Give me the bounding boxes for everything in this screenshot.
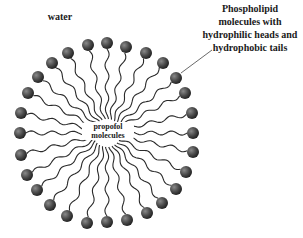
- phospholipid-head: [46, 57, 58, 69]
- phospholipid-tail: [69, 145, 99, 211]
- phospholipid-head: [62, 47, 74, 59]
- phospholipid-head: [179, 87, 191, 99]
- phospholipid-head: [140, 47, 152, 59]
- phospholipid-tail: [54, 143, 97, 200]
- annotation-line-4: hydrophobic tails: [197, 41, 303, 54]
- core-line-1: propofol: [82, 122, 134, 131]
- phospholipid-tail: [109, 147, 126, 214]
- phospholipid-tail: [110, 53, 126, 120]
- phospholipid-head: [120, 41, 132, 53]
- phospholipid-head: [31, 184, 43, 196]
- phospholipid-head: [32, 71, 44, 83]
- phospholipid-tail: [105, 147, 109, 216]
- phospholipid-head: [121, 214, 133, 226]
- phospholipid-head: [186, 107, 198, 119]
- propofol-core-label: propofol molecules: [82, 122, 134, 140]
- phospholipid-head: [156, 197, 168, 209]
- phospholipid-head: [22, 87, 34, 99]
- phospholipid-head: [61, 210, 73, 222]
- phospholipid-head: [101, 216, 113, 228]
- phospholipid-head: [15, 149, 27, 161]
- annotation-line-1: Phospholipid: [197, 2, 303, 15]
- phospholipid-tail: [87, 146, 103, 217]
- phospholipid-tail: [89, 51, 105, 119]
- phospholipid-head: [141, 207, 153, 219]
- phospholipid-head: [81, 217, 93, 229]
- phospholipid-head: [14, 127, 26, 139]
- core-line-2: molecules: [82, 131, 134, 140]
- phospholipid-head: [157, 57, 169, 69]
- water-label: water: [30, 11, 90, 23]
- phospholipid-tail: [43, 81, 97, 123]
- phospholipid-head: [15, 107, 27, 119]
- phospholipid-tail: [117, 143, 171, 185]
- phospholipid-tail: [105, 49, 109, 119]
- phospholipid-head: [180, 166, 192, 178]
- phospholipid-head: [170, 183, 182, 195]
- phospholipid-head: [101, 37, 113, 49]
- phospholipid-tail: [33, 96, 95, 126]
- phospholipid-head: [21, 169, 33, 181]
- phospholipid-head: [187, 127, 199, 139]
- phospholipid-tail: [71, 58, 103, 119]
- phospholipid-head: [187, 146, 199, 158]
- phospholipid-head: [170, 72, 182, 84]
- annotation-line-2: molecules with: [197, 15, 303, 28]
- phospholipid-tail: [117, 68, 159, 123]
- phospholipid-annotation: Phospholipid molecules with hydrophilic …: [197, 2, 303, 54]
- phospholipid-head: [44, 199, 56, 211]
- phospholipid-head: [82, 39, 94, 51]
- annotation-line-3: hydrophilic heads and: [197, 28, 303, 41]
